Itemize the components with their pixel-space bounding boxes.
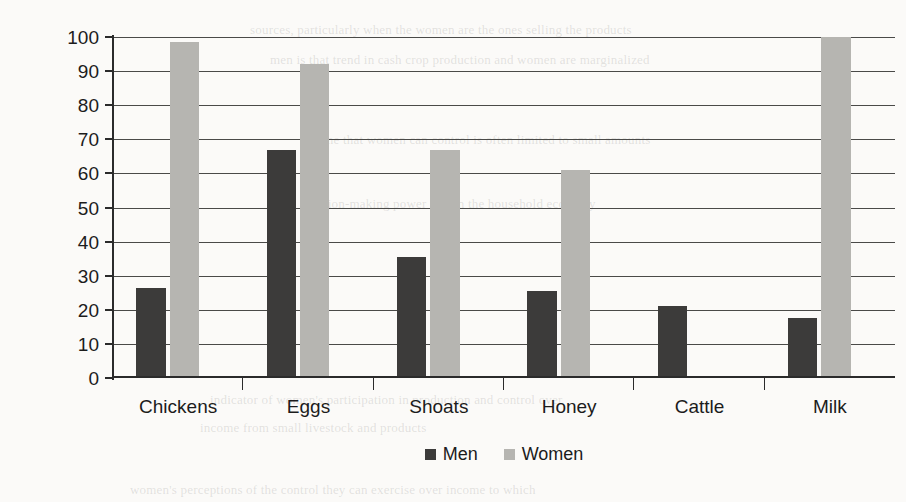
legend-swatch-women [504, 449, 515, 460]
y-axis-tick-mark [105, 241, 114, 243]
bar-cattle-men [658, 306, 687, 378]
y-axis-tick-mark [105, 377, 114, 379]
x-axis-group-separator [633, 378, 634, 390]
x-axis-group-separator [503, 378, 504, 390]
x-axis-group-separator [764, 378, 765, 390]
bar-group [243, 37, 373, 378]
legend-swatch-men [425, 449, 436, 460]
bar-group [113, 37, 243, 378]
x-axis-label-honey: Honey [504, 392, 634, 422]
legend-item-men: Men [425, 444, 478, 465]
y-axis-tick-mark [105, 70, 114, 72]
bar-milk-men [788, 318, 817, 378]
x-axis-label-chickens: Chickens [113, 392, 243, 422]
bar-chickens-women [170, 42, 199, 378]
x-axis-label-milk: Milk [765, 392, 895, 422]
bar-chickens-men [136, 288, 165, 378]
y-axis-tick-label: 70 [29, 130, 99, 149]
bar-group [374, 37, 504, 378]
y-axis-tick-label: 100 [29, 28, 99, 47]
bar-milk-women [821, 37, 850, 378]
bar-group [504, 37, 634, 378]
x-axis-category-labels: ChickensEggsShoatsHoneyCattleMilk [113, 392, 895, 422]
y-axis-tick-mark [105, 138, 114, 140]
y-axis-tick-mark [105, 36, 114, 38]
bar-group [765, 37, 895, 378]
plot-area [113, 37, 895, 378]
x-axis-line [112, 376, 895, 378]
bar-shoats-women [430, 150, 459, 378]
y-axis-tick-label: 60 [29, 164, 99, 183]
bar-groups [113, 37, 895, 378]
x-axis-group-separator [373, 378, 374, 390]
y-axis-tick-mark [105, 207, 114, 209]
y-axis-tick-label: 80 [29, 96, 99, 115]
y-axis-tick-label: 0 [29, 369, 99, 388]
legend-item-women: Women [504, 444, 584, 465]
x-axis-label-cattle: Cattle [634, 392, 764, 422]
bar-eggs-men [267, 150, 296, 378]
y-axis-tick-label: 10 [29, 334, 99, 353]
x-axis-label-eggs: Eggs [243, 392, 373, 422]
y-axis-tick-label: 30 [29, 266, 99, 285]
y-axis-tick-mark [105, 104, 114, 106]
legend-label-men: Men [443, 444, 478, 465]
chart-legend: MenWomen [113, 444, 895, 465]
x-axis-label-shoats: Shoats [374, 392, 504, 422]
bar-honey-men [527, 291, 556, 378]
y-axis-tick-label: 50 [29, 198, 99, 217]
x-axis-group-separator [242, 378, 243, 390]
y-axis-tick-label: 40 [29, 232, 99, 251]
y-axis-tick-label: 20 [29, 300, 99, 319]
chart-page: sources, particularly when the women are… [0, 0, 906, 502]
y-axis-tick-mark [105, 309, 114, 311]
bar-honey-women [561, 170, 590, 378]
y-axis-tick-mark [105, 172, 114, 174]
bar-eggs-women [300, 64, 329, 378]
bar-group [634, 37, 764, 378]
y-axis-tick-label: 90 [29, 62, 99, 81]
y-axis-tick-mark [105, 275, 114, 277]
legend-label-women: Women [522, 444, 584, 465]
y-axis-tick-mark [105, 343, 114, 345]
bar-shoats-men [397, 257, 426, 378]
